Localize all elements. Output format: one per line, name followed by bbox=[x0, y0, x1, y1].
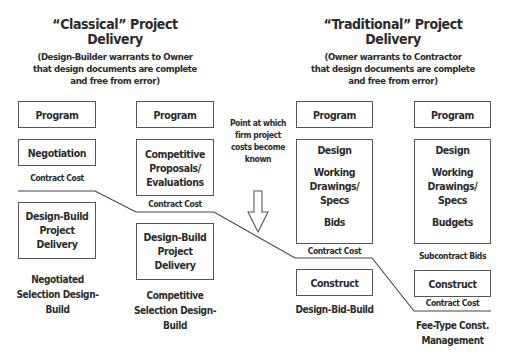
note-line: firm project bbox=[219, 129, 297, 141]
box-label: Working bbox=[432, 165, 473, 179]
left-title-line1: “Classical” Project bbox=[30, 17, 200, 32]
firm-cost-point-note: Point at which firm project costs become… bbox=[219, 117, 297, 165]
negotiated-design-build-box: Design-Build Project Delivery bbox=[18, 202, 96, 259]
note-line: Point at which bbox=[219, 117, 297, 129]
right-section-title: “Traditional” Project Delivery bbox=[308, 17, 478, 47]
box-label: Competitive bbox=[145, 147, 205, 161]
caption-line: Negotiated bbox=[10, 272, 105, 287]
competitive-proposals-box: Competitive Proposals/ Evaluations bbox=[136, 139, 214, 196]
caption-line: Fee-Type Const. bbox=[404, 318, 501, 333]
box-label: Specs bbox=[320, 193, 349, 207]
left-title-line2: Delivery bbox=[30, 32, 200, 47]
box-label: Construct bbox=[428, 277, 476, 291]
box-label: Program bbox=[154, 108, 197, 122]
caption-line: Selection Design- bbox=[127, 303, 223, 318]
caption-line: Competitive bbox=[127, 288, 223, 303]
negotiated-program-box: Program bbox=[18, 101, 96, 128]
dbb-contract-cost-label: Contract Cost bbox=[296, 246, 373, 257]
box-label: Drawings/ bbox=[428, 179, 478, 193]
box-label: Proposals/ bbox=[149, 161, 201, 175]
box-label: Project Delivery bbox=[137, 244, 213, 272]
box-label: Design-Build bbox=[144, 230, 207, 244]
left-section-subtitle: (Design-Builder warrants to Owner that d… bbox=[25, 51, 205, 87]
box-label: Design bbox=[435, 143, 469, 157]
box-label: Program bbox=[313, 108, 356, 122]
box-label: Negotiation bbox=[28, 146, 86, 160]
right-subtitle-line3: and free from error) bbox=[298, 75, 488, 87]
cm-program-box: Program bbox=[414, 101, 491, 128]
subcontract-bids-label: Subcontract Bids bbox=[405, 251, 500, 262]
caption-line: Management bbox=[404, 333, 501, 348]
box-label: Budgets bbox=[432, 215, 473, 229]
negotiated-contract-cost-label: Contract Cost bbox=[18, 173, 96, 184]
dbb-program-box: Program bbox=[296, 101, 373, 128]
left-subtitle-line3: and free from error) bbox=[25, 75, 205, 87]
right-title-line2: Delivery bbox=[308, 32, 478, 47]
right-subtitle-line2: that design documents are complete bbox=[298, 63, 488, 75]
caption-line: Build bbox=[10, 302, 105, 317]
cm-caption: Fee-Type Const. Management bbox=[404, 318, 501, 348]
cm-design-box: Design Working Drawings/ Specs Budgets bbox=[414, 139, 491, 244]
left-section-title: “Classical” Project Delivery bbox=[30, 17, 200, 47]
box-label: Program bbox=[431, 108, 474, 122]
dbb-caption: Design-Bid-Build bbox=[286, 302, 383, 317]
note-line: known bbox=[219, 153, 297, 165]
competitive-program-box: Program bbox=[136, 101, 214, 128]
box-label: Specs bbox=[438, 193, 467, 207]
box-label: Design bbox=[317, 143, 351, 157]
cm-construct-box: Construct bbox=[414, 270, 491, 297]
dbb-construct-box: Construct bbox=[296, 269, 373, 296]
box-label: Design-Build bbox=[26, 209, 89, 223]
box-label: Program bbox=[36, 108, 79, 122]
box-label: Working bbox=[314, 165, 355, 179]
caption-line: Build bbox=[127, 318, 223, 333]
competitive-design-build-box: Design-Build Project Delivery bbox=[136, 223, 214, 280]
box-label: Bids bbox=[324, 215, 345, 229]
box-label: Drawings/ bbox=[310, 179, 360, 193]
left-subtitle-line1: (Design-Builder warrants to Owner bbox=[25, 51, 205, 63]
competitive-contract-cost-label: Contract Cost bbox=[136, 199, 214, 210]
cm-contract-cost-label: Contract Cost bbox=[414, 298, 491, 309]
competitive-selection-caption: Competitive Selection Design- Build bbox=[127, 288, 223, 333]
down-arrow-icon bbox=[248, 191, 268, 232]
dbb-design-box: Design Working Drawings/ Specs Bids bbox=[296, 139, 373, 244]
right-subtitle-line1: (Owner warrants to Contractor bbox=[298, 51, 488, 63]
negotiation-box: Negotiation bbox=[18, 139, 96, 166]
box-label: Evaluations bbox=[146, 175, 204, 189]
left-subtitle-line2: that design documents are complete bbox=[25, 63, 205, 75]
negotiated-selection-caption: Negotiated Selection Design- Build bbox=[10, 272, 105, 317]
right-title-line1: “Traditional” Project bbox=[308, 17, 478, 32]
box-label: Project Delivery bbox=[19, 223, 95, 251]
right-section-subtitle: (Owner warrants to Contractor that desig… bbox=[298, 51, 488, 87]
caption-line: Selection Design- bbox=[10, 287, 105, 302]
box-label: Construct bbox=[310, 276, 358, 290]
note-line: costs become bbox=[219, 141, 297, 153]
